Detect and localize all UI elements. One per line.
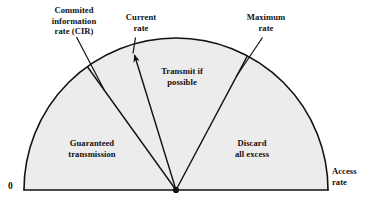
label-transmit-if-possible: Transmit if possible bbox=[142, 66, 222, 87]
center-vertex-dot bbox=[173, 187, 179, 193]
label-current-rate: Current rate bbox=[110, 12, 172, 33]
label-access-rate: Access rate bbox=[332, 166, 374, 187]
label-maximum-rate: Maximum rate bbox=[228, 12, 304, 33]
fan-region-fill bbox=[24, 38, 328, 190]
label-guaranteed-transmission: Guaranteed transmission bbox=[42, 138, 142, 159]
label-discard-all-excess: Discard all excess bbox=[212, 138, 292, 159]
diagram-canvas: Commited information rate (CIR) Current … bbox=[0, 0, 374, 208]
label-origin-zero: 0 bbox=[8, 181, 20, 192]
label-committed-information-rate: Commited information rate (CIR) bbox=[26, 5, 122, 37]
